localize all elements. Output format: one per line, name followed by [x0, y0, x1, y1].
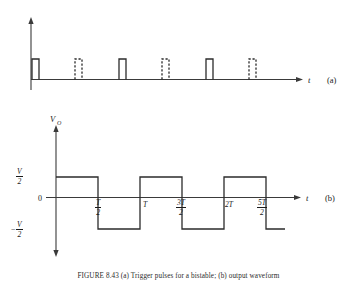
panel-a-plot: t (a): [0, 0, 357, 100]
y-neg-denominator: 2: [16, 231, 23, 239]
panel-b-y-axis-label: V: [50, 114, 57, 124]
figure-caption: FIGURE 8.43 (a) Trigger pulses for a bis…: [0, 272, 357, 280]
x-tick-label-T: T: [143, 200, 148, 209]
y-neg-numerator: V: [16, 221, 23, 229]
x-tick-3-denominator: 2: [176, 209, 186, 217]
x-tick-label-T-over-2: T 2: [95, 199, 101, 216]
panel-a: t (a): [0, 0, 357, 100]
x-tick-label-5T-over-2: 5T 2: [257, 199, 267, 216]
panel-a-id-label: (a): [327, 75, 337, 85]
x-tick-label-3T-over-2: 3T 2: [176, 199, 186, 216]
x-tick-label-2T: 2T: [225, 200, 234, 209]
panel-b-y-axis-arrowhead-down: [53, 250, 58, 257]
pulse-dashed-3: [249, 59, 256, 80]
panel-b-id-label: (b): [325, 193, 335, 203]
panel-a-y-axis-arrowhead: [28, 17, 33, 24]
y-tick-label-negative-half: − V 2: [16, 221, 23, 238]
panel-b-origin-label: 0: [38, 194, 42, 203]
x-tick-1-numerator: T: [95, 199, 101, 207]
panel-b: V O 0 t (b) T 2T V 2 − V 2 T 2 3T: [0, 100, 357, 265]
pulse-solid-2: [119, 59, 126, 80]
panel-a-x-axis-label: t: [308, 75, 311, 85]
panel-b-y-axis-arrowhead: [53, 125, 58, 132]
pulse-solid-3: [206, 59, 213, 80]
pulse-dashed-2: [162, 59, 169, 80]
y-pos-numerator: V: [16, 168, 23, 176]
panel-a-x-axis-arrowhead: [296, 77, 303, 82]
y-neg-sign: −: [11, 226, 16, 234]
y-tick-label-positive-half: V 2: [16, 168, 23, 185]
panel-b-x-axis-arrowhead: [294, 195, 301, 200]
figure-container: t (a) V O 0 t (b) T 2T V: [0, 0, 357, 288]
x-tick-1-denominator: 2: [95, 209, 101, 217]
x-tick-3-numerator: 3T: [176, 199, 186, 207]
panel-b-x-axis-label: t: [306, 193, 309, 203]
y-pos-denominator: 2: [16, 178, 23, 186]
x-tick-5-numerator: 5T: [257, 199, 267, 207]
x-tick-5-denominator: 2: [257, 209, 267, 217]
pulse-solid-1: [32, 59, 39, 80]
square-wave-trace: [56, 177, 285, 229]
pulse-dashed-1: [75, 59, 82, 80]
panel-b-y-axis-subscript: O: [57, 120, 62, 126]
panel-b-plot: V O 0 t (b) T 2T: [0, 100, 357, 265]
